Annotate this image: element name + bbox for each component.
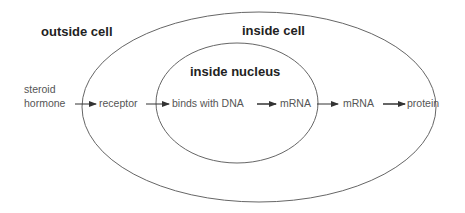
node-steroid-line2: hormone [24, 97, 65, 109]
node-steroid-line1: steroid [24, 83, 56, 95]
region-label-inside-nucleus: inside nucleus [190, 64, 280, 79]
node-mrna-nucleus: mRNA [280, 97, 311, 109]
region-label-inside-cell: inside cell [242, 23, 305, 38]
diagram-canvas: outside cell inside cell inside nucleus … [0, 0, 465, 213]
region-label-outside-cell: outside cell [41, 24, 113, 39]
node-receptor: receptor [99, 97, 138, 109]
node-mrna-cytoplasm: mRNA [343, 97, 374, 109]
node-protein: protein [407, 97, 439, 109]
node-binds-with-dna: binds with DNA [172, 97, 244, 109]
